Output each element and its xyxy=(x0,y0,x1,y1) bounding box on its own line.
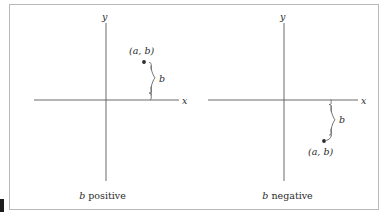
point-label: (a, b) xyxy=(129,46,154,56)
plotted-point xyxy=(322,139,326,143)
point-label: (a, b) xyxy=(308,147,333,157)
figure-root: y x (a, b) b b positive xyxy=(0,0,387,222)
brace-label: b xyxy=(339,115,345,125)
brace-shape xyxy=(330,105,335,136)
brace-upper-tail xyxy=(330,100,332,105)
x-axis-label: x xyxy=(361,96,366,106)
figure-frame: y x (a, b) b b positive xyxy=(9,4,379,210)
x-axis-label: x xyxy=(182,96,187,106)
plotted-point xyxy=(142,60,146,64)
panel-b-negative-graphics xyxy=(195,5,380,211)
brace-shape xyxy=(150,63,155,94)
panel-caption: b positive xyxy=(10,190,195,201)
panel-b-positive: y x (a, b) b b positive xyxy=(10,5,195,211)
panel-caption: b negative xyxy=(195,190,380,201)
caption-word: negative xyxy=(271,190,312,201)
y-axis-label: y xyxy=(280,12,285,22)
y-axis-label: y xyxy=(102,12,107,22)
brace-foot xyxy=(327,136,332,140)
caption-word: positive xyxy=(88,190,126,201)
brace-label: b xyxy=(159,74,165,84)
panel-b-negative: y x b (a, b) b negative xyxy=(195,5,380,211)
margin-mark xyxy=(0,199,4,212)
panel-b-positive-graphics xyxy=(10,5,195,211)
